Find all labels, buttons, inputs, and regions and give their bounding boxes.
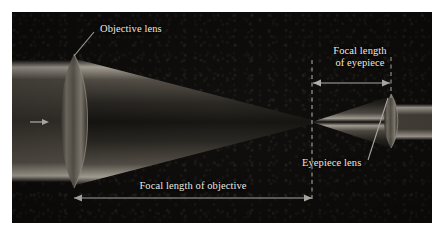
converging-cone-upper — [72, 58, 312, 122]
focal-length-eyepiece-label: Focal length of eyepiece — [320, 45, 400, 68]
converging-cone-lower — [72, 122, 312, 186]
eyepiece-lens-label: Eyepiece lens — [302, 157, 361, 169]
focal-length-eyepiece-line1: Focal length — [333, 45, 386, 56]
diverging-cone-upper — [312, 96, 391, 122]
diagram-panel: Objective lens Focal length of eyepiece … — [12, 12, 432, 223]
figure-canvas: Objective lens Focal length of eyepiece … — [0, 0, 448, 240]
focal-length-eyepiece-line2: of eyepiece — [335, 57, 384, 68]
double-arrow-icon-objective — [74, 195, 312, 202]
focal-length-objective-label: Focal length of objective — [108, 180, 278, 192]
objective-lens-label: Objective lens — [100, 23, 162, 35]
objective-leader-line — [74, 32, 94, 56]
double-arrow-icon-eyepiece — [313, 80, 390, 87]
